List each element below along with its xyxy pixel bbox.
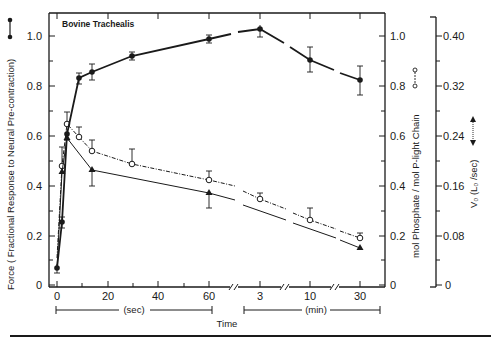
svg-text:0.6: 0.6 [390, 130, 405, 142]
sec-label: (sec) [123, 304, 144, 315]
svg-text:0.4: 0.4 [27, 180, 42, 192]
svg-text:0.16: 0.16 [443, 180, 464, 192]
svg-text:0.2: 0.2 [27, 230, 42, 242]
velocity-axis-title: V₀ (L₀ /sec) [468, 116, 479, 208]
plot-frame [49, 13, 436, 287]
svg-text:0.8: 0.8 [27, 80, 42, 92]
right-axis-ticks [379, 36, 385, 285]
chart: 0 20 40 60 3 10 30 0 0.2 0.4 0.6 0.8 1.0… [0, 0, 491, 340]
left-tick-labels: 0 0.2 0.4 0.6 0.8 1.0 [27, 30, 42, 291]
series-force [54, 25, 363, 273]
svg-text:0.24: 0.24 [443, 130, 464, 142]
right-tick-labels: 0 0.2 0.4 0.6 0.8 1.0 [390, 30, 405, 291]
svg-text:40: 40 [152, 290, 164, 302]
svg-text:1.0: 1.0 [27, 30, 42, 42]
svg-text:3: 3 [257, 290, 263, 302]
velocity-tick-labels: 0 0.08 0.16 0.24 0.32 0.40 [443, 30, 464, 291]
velocity-axis-ticks [436, 36, 442, 285]
chart-title: Bovine Trachealis [62, 19, 135, 29]
svg-text:20: 20 [102, 290, 114, 302]
svg-text:0: 0 [36, 279, 42, 291]
svg-text:0.2: 0.2 [390, 230, 405, 242]
x-axis-ticks [57, 13, 360, 287]
svg-text:Force ( Fractional Response to: Force ( Fractional Response to Neural Pr… [5, 59, 16, 290]
series-phosphate [57, 112, 363, 258]
x-axis-title: Time [217, 318, 238, 329]
svg-text:V₀ (L₀ /sec): V₀ (L₀ /sec) [468, 159, 479, 208]
svg-text:30: 30 [354, 290, 366, 302]
svg-text:0: 0 [54, 290, 60, 302]
min-label: (min) [305, 304, 327, 315]
svg-text:60: 60 [203, 290, 215, 302]
svg-text:mol Phosphate / mol P-light Ch: mol Phosphate / mol P-light Chain [410, 114, 421, 258]
svg-text:1.0: 1.0 [390, 30, 405, 42]
series-velocity [57, 134, 364, 268]
svg-text:0: 0 [445, 279, 451, 291]
svg-text:10: 10 [304, 290, 316, 302]
left-axis-ticks [49, 36, 55, 285]
svg-text:0.8: 0.8 [390, 80, 405, 92]
svg-text:0.08: 0.08 [443, 230, 464, 242]
svg-text:0.40: 0.40 [443, 30, 464, 42]
svg-text:0.6: 0.6 [27, 130, 42, 142]
svg-text:0.32: 0.32 [443, 80, 464, 92]
right-axis-title: mol Phosphate / mol P-light Chain [410, 68, 421, 258]
svg-text:0: 0 [390, 279, 396, 291]
svg-text:0.4: 0.4 [390, 180, 405, 192]
left-axis-title: Force ( Fractional Response to Neural Pr… [5, 18, 16, 290]
x-tick-labels: 0 20 40 60 3 10 30 [54, 290, 366, 302]
